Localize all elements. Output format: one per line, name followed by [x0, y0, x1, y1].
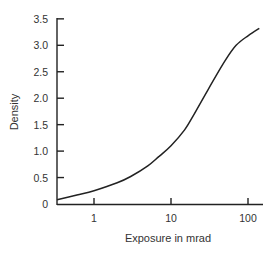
x-tick-label: 1 — [91, 212, 97, 224]
y-tick-label: 2.0 — [33, 92, 48, 104]
x-tick-label: 10 — [165, 212, 177, 224]
y-tick-label: 1.5 — [33, 119, 48, 131]
y-tick-label: 3.0 — [33, 39, 48, 51]
chart: 00.51.01.52.02.53.03.5 110100 Exposure i… — [0, 0, 279, 255]
y-tick-label: 3.5 — [33, 13, 48, 25]
x-axis-label: Exposure in mrad — [125, 232, 211, 244]
y-tick-label: 0 — [42, 198, 48, 210]
characteristic-curve-line — [57, 28, 259, 199]
y-axis-label: Density — [8, 93, 20, 130]
y-tick-label: 1.0 — [33, 145, 48, 157]
y-axis: 00.51.01.52.02.53.03.5 — [33, 13, 64, 210]
x-axis: 110100 — [57, 198, 263, 224]
x-tick-label: 100 — [239, 212, 257, 224]
y-tick-label: 0.5 — [33, 172, 48, 184]
y-tick-label: 2.5 — [33, 66, 48, 78]
